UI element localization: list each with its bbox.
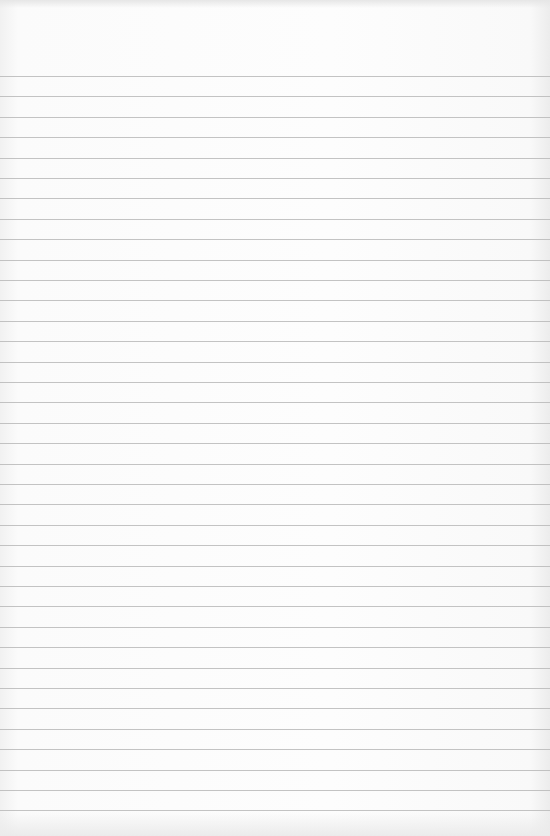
ruled-line [0,525,550,526]
ruled-line [0,668,550,669]
ruled-line [0,545,550,546]
ruled-line [0,219,550,220]
ruled-line [0,321,550,322]
ruled-line [0,566,550,567]
ruled-line [0,341,550,342]
ruled-line [0,96,550,97]
ruled-line [0,178,550,179]
ruled-line [0,464,550,465]
ruled-line [0,708,550,709]
ruled-line [0,76,550,77]
ruled-line [0,137,550,138]
ruled-line [0,382,550,383]
ruled-line [0,239,550,240]
ruled-line [0,158,550,159]
ruled-line [0,729,550,730]
ruled-line [0,606,550,607]
ruled-line [0,198,550,199]
ruled-line [0,647,550,648]
ruled-line [0,504,550,505]
lined-paper [0,0,550,836]
paper-bottom-edge [0,812,550,836]
ruled-line [0,117,550,118]
ruled-line [0,402,550,403]
ruled-line [0,280,550,281]
ruled-line [0,443,550,444]
ruled-line [0,300,550,301]
ruled-line [0,484,550,485]
ruled-line [0,749,550,750]
ruled-line [0,423,550,424]
ruled-line [0,627,550,628]
paper-top-edge [0,0,550,8]
ruled-line [0,586,550,587]
ruled-line [0,770,550,771]
ruled-line [0,260,550,261]
ruled-line [0,790,550,791]
ruled-line [0,362,550,363]
ruled-line [0,688,550,689]
ruled-line [0,810,550,811]
